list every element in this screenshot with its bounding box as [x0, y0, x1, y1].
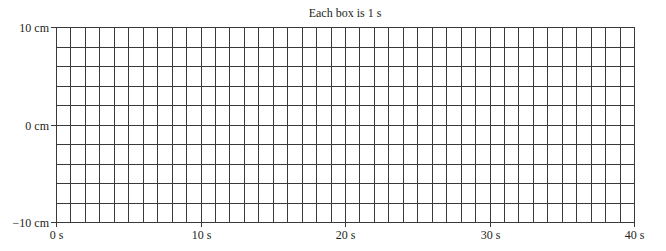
chart-title: Each box is 1 s	[309, 6, 382, 20]
grid	[56, 27, 635, 223]
blank-graph-chart: Each box is 1 s 10 cm0 cm−10 cm 0 s10 s2…	[0, 0, 666, 251]
x-tick-label: 0 s	[50, 228, 64, 242]
y-tick-label: 10 cm	[19, 21, 49, 35]
y-tick-label: −10 cm	[13, 216, 50, 230]
y-tick-label: 0 cm	[25, 119, 49, 133]
x-tick-label: 20 s	[336, 228, 356, 242]
y-axis: 10 cm0 cm−10 cm	[13, 21, 56, 230]
x-tick-label: 40 s	[625, 228, 645, 242]
x-axis: 0 s10 s20 s30 s40 s	[50, 222, 645, 242]
x-tick-label: 30 s	[481, 228, 501, 242]
x-tick-label: 10 s	[192, 228, 212, 242]
